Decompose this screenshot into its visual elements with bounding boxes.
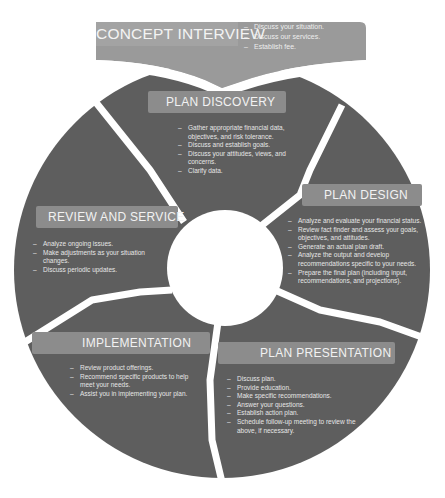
list-item: Make adjustments as your situation chang…: [33, 249, 153, 266]
list-item: Establish action plan.: [227, 409, 362, 418]
concept-interview-title: CONCEPT INTERVIEW: [96, 22, 238, 46]
list-item: Discuss your attitudes, views, and conce…: [178, 150, 308, 167]
plan-design-list: Analyze and evaluate your financial stat…: [288, 217, 423, 286]
list-item: Assist you in implementing your plan.: [70, 390, 195, 399]
list-item: Discuss periodic updates.: [33, 266, 153, 275]
plan-discovery-title: PLAN DISCOVERY: [148, 91, 286, 113]
list-item: Prepare the final plan (including input,…: [288, 269, 423, 286]
list-item: Recommend specific products to help meet…: [70, 373, 195, 390]
implementation-list: Review product offerings. Recommend spec…: [70, 364, 195, 398]
list-item: Review fact finder and assess your goals…: [288, 226, 423, 243]
review-and-service-list: Analyze ongoing issues. Make adjustments…: [33, 240, 153, 274]
list-item: Review product offerings.: [70, 364, 195, 373]
plan-design-title: PLAN DESIGN: [302, 184, 422, 206]
list-item: Establish fee.: [244, 42, 324, 52]
list-item: Discuss your situation.: [244, 22, 324, 32]
list-item: Analyze and evaluate your financial stat…: [288, 217, 423, 226]
plan-presentation-list: Discuss plan. Provide education. Make sp…: [227, 375, 362, 435]
plan-discovery-list: Gather appropriate financial data, objec…: [178, 124, 308, 176]
list-item: Discuss our services.: [244, 32, 324, 42]
plan-presentation-title: PLAN PRESENTATION: [218, 342, 395, 364]
list-item: Gather appropriate financial data, objec…: [178, 124, 308, 141]
list-item: Discuss and establish goals.: [178, 141, 308, 150]
list-item: Analyze ongoing issues.: [33, 240, 153, 249]
implementation-title: IMPLEMENTATION: [32, 332, 210, 354]
list-item: Discuss plan.: [227, 375, 362, 384]
list-item: Provide education.: [227, 384, 362, 393]
review-and-service-title: REVIEW AND SERVICE: [36, 206, 178, 228]
list-item: Clarify data.: [178, 167, 308, 176]
list-item: Schedule follow-up meeting to review the…: [227, 418, 362, 435]
list-item: Analyze the output and develop recommend…: [288, 251, 423, 268]
list-item: Answer your questions.: [227, 401, 362, 410]
list-item: Generate an actual plan draft.: [288, 243, 423, 252]
concept-interview-list: Discuss your situation. Discuss our serv…: [244, 22, 324, 52]
list-item: Make specific recommendations.: [227, 392, 362, 401]
